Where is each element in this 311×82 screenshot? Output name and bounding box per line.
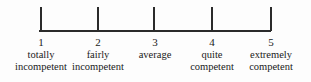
axis-tick-4 [211,7,213,31]
scale-point-5-number: 5 [236,36,306,49]
scale-point-5[interactable]: 5 extremely competent [236,36,306,74]
scale-point-5-line1: extremely [236,49,306,62]
scale-point-2-line2: incompetent [57,61,139,74]
scale-labels: 1 totally incompetent 2 fairly incompete… [0,36,311,82]
axis-tick-3 [153,7,155,31]
axis-tick-2 [97,7,99,31]
axis-baseline [39,30,271,32]
axis-tick-5 [270,7,272,31]
scale-axis [0,0,311,36]
scale-point-5-line2: competent [236,61,306,74]
axis-tick-1 [40,7,42,31]
rating-scale-figure: 1 totally incompetent 2 fairly incompete… [0,0,311,82]
